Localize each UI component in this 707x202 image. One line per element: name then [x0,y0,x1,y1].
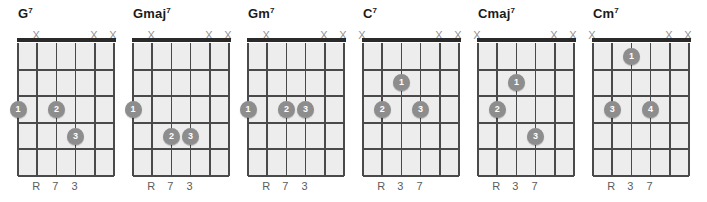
finger-dot: 1 [125,101,142,118]
fret-line [363,95,459,97]
finger-dot: 1 [10,101,27,118]
chord-quality-superscript: 7 [28,6,33,15]
string-line [190,43,192,176]
chord-quality-superscript: 7 [270,6,275,15]
string-line [401,43,403,176]
fret-line [133,95,229,97]
fretboard-grid: 123 [362,43,460,176]
string-line [592,43,594,176]
interval-label-row: R73 [132,180,228,194]
fret-line [18,69,114,71]
interval-label-row: R37 [592,180,688,194]
fretboard-grid: 123 [132,43,230,176]
finger-dot: 3 [297,101,314,118]
finger-dot: 3 [67,128,84,145]
string-line [477,43,479,176]
chord-title: G7 [18,6,33,21]
chord-diagram: Cmaj7XXX123R37 [460,0,575,202]
chord-root-label: Cmaj [478,6,511,21]
fret-line [478,95,574,97]
finger-dot: 4 [642,101,659,118]
nut-bar [132,38,231,43]
fret-line [363,148,459,150]
chord-title: C7 [363,6,377,21]
finger-dot: 1 [623,48,640,65]
fret-line [363,69,459,71]
chord-root-label: Gmaj [133,6,166,21]
fret-line [133,122,229,124]
chord-title: Cmaj7 [478,6,515,21]
fret-line [363,122,459,124]
chord-quality-superscript: 7 [511,6,516,15]
string-line [36,43,38,176]
fret-line [478,148,574,150]
chord-title: Gmaj7 [133,6,171,21]
string-line [209,43,211,176]
fret-line [593,95,689,97]
interval-label: 7 [48,180,62,193]
interval-label: 7 [528,180,542,193]
interval-label: R [259,180,273,193]
string-line [516,43,518,176]
finger-dot: 3 [182,128,199,145]
fret-line [18,148,114,150]
string-line [151,43,153,176]
string-line [266,43,268,176]
fret-line [478,175,574,177]
chord-quality-superscript: 7 [166,6,171,15]
finger-dot: 2 [374,101,391,118]
fret-line [18,175,114,177]
string-line [688,43,690,176]
interval-label: 7 [643,180,657,193]
finger-dot: 3 [527,128,544,145]
fret-line [593,69,689,71]
finger-dot: 2 [48,101,65,118]
string-line [439,43,441,176]
chord-quality-superscript: 7 [614,6,619,15]
chord-diagram: Gm7XXX123R73 [230,0,345,202]
fret-line [18,122,114,124]
chord-diagram: G7XXX123R73 [0,0,115,202]
finger-dot: 1 [240,101,257,118]
string-line [669,43,671,176]
nut-bar [592,38,691,43]
chord-diagram: Cm7XXX134R37 [575,0,690,202]
fret-line [248,148,344,150]
fret-line [133,175,229,177]
string-line [75,43,77,176]
chord-quality-superscript: 7 [373,6,378,15]
fret-line [248,122,344,124]
interval-label: R [489,180,503,193]
interval-label-row: R37 [362,180,458,194]
interval-label: 7 [278,180,292,193]
finger-dot: 1 [393,74,410,91]
fret-line [18,95,114,97]
fret-line [478,69,574,71]
finger-dot: 2 [278,101,295,118]
string-line [94,43,96,176]
interval-label: 3 [298,180,312,193]
nut-bar [477,38,576,43]
interval-label: 7 [413,180,427,193]
finger-dot: 3 [604,101,621,118]
interval-label: R [374,180,388,193]
fretboard-grid: 123 [17,43,115,176]
interval-label: 3 [68,180,82,193]
interval-label: 3 [508,180,522,193]
fret-line [593,148,689,150]
string-line [362,43,364,176]
chord-root-label: G [18,6,28,21]
finger-dot: 2 [489,101,506,118]
interval-label-row: R37 [477,180,573,194]
finger-dot: 2 [163,128,180,145]
fretboard-grid: 123 [477,43,575,176]
nut-bar [247,38,346,43]
interval-label: 3 [183,180,197,193]
chord-root-label: Gm [248,6,270,21]
fret-line [363,175,459,177]
chord-title: Cm7 [593,6,619,21]
interval-label: 7 [163,180,177,193]
interval-label-row: R73 [17,180,113,194]
fret-line [248,95,344,97]
chord-title: Gm7 [248,6,275,21]
